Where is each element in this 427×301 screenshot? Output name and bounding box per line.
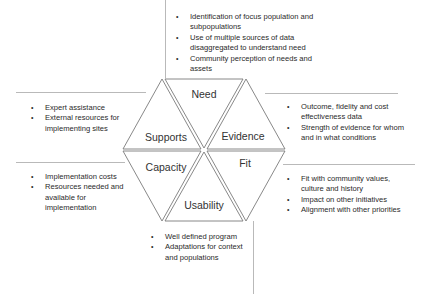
divider-capacity-top — [16, 162, 125, 163]
note-item: Strength of evidence for whom and in wha… — [286, 123, 418, 144]
note-item: Use of multiple sources of data disaggre… — [175, 33, 325, 54]
note-item: Alignment with other priorities — [286, 205, 408, 215]
notes-usability: Well defined program Adaptations for con… — [150, 232, 255, 263]
label-usability: Usability — [184, 199, 224, 211]
notes-need: Identification of focus population and s… — [175, 12, 325, 74]
note-item: Identification of focus population and s… — [175, 12, 325, 33]
note-item: Impact on other initiatives — [286, 195, 408, 205]
note-item: Expert assistance — [30, 103, 130, 113]
divider-evidence-top — [265, 93, 398, 94]
label-capacity: Capacity — [146, 161, 187, 173]
label-supports: Supports — [145, 131, 187, 143]
note-item: Well defined program — [150, 232, 255, 242]
note-item: Resources needed and available for imple… — [30, 182, 130, 213]
label-fit: Fit — [239, 157, 251, 169]
note-item: Community perception of needs and assets — [175, 54, 325, 75]
note-item: Implementation costs — [30, 172, 130, 182]
divider-fit-top — [283, 164, 415, 165]
label-need: Need — [191, 88, 216, 100]
notes-supports: Expert assistance External resources for… — [30, 103, 130, 134]
divider-need-vertical — [165, 0, 166, 79]
note-item: Adaptations for context and populations — [150, 242, 255, 263]
note-item: External resources for implementing site… — [30, 113, 130, 134]
label-evidence: Evidence — [221, 130, 264, 142]
notes-evidence: Outcome, fidelity and cost effectiveness… — [286, 102, 418, 144]
hexagon-diagram: Need Evidence Fit Usability Capacity Sup… — [0, 0, 427, 301]
divider-supports-top — [16, 92, 146, 93]
note-item: Outcome, fidelity and cost effectiveness… — [286, 102, 418, 123]
notes-fit: Fit with community values, culture and h… — [286, 174, 408, 216]
note-item: Fit with community values, culture and h… — [286, 174, 408, 195]
notes-capacity: Implementation costs Resources needed an… — [30, 172, 130, 214]
